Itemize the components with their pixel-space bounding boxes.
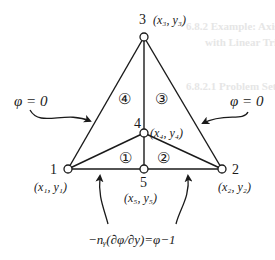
mesh-nodes	[64, 33, 226, 173]
node-2-coord: (x₂, y₂)	[218, 180, 251, 194]
mesh-edges	[68, 37, 222, 169]
node-5-label: 5	[140, 175, 147, 190]
right-arrow-icon	[203, 112, 248, 123]
bottom-left-arrow-icon	[100, 176, 108, 224]
finite-element-mesh-diagram: 3 (x₃, y₃) 4 (x₄, y₄) 1 (x₁, y₁) 2 (x₂, …	[0, 0, 275, 260]
edge-1-3	[68, 37, 144, 169]
node-3-label: 3	[139, 12, 146, 27]
left-boundary-condition: φ = 0	[14, 93, 48, 109]
node-1-label: 1	[50, 162, 57, 177]
edge-1-4	[68, 133, 144, 169]
node-3-coord: (x₃, y₃)	[153, 13, 186, 27]
element-1-label: ①	[119, 150, 132, 166]
node-5	[140, 165, 148, 173]
node-4	[140, 129, 148, 137]
node-4-coord: (x₄, y₄)	[150, 126, 183, 140]
element-4-label: ④	[118, 91, 131, 107]
node-4-label: 4	[134, 116, 141, 131]
left-arrow-icon	[30, 110, 90, 121]
node-3	[140, 33, 148, 41]
right-boundary-condition: φ = 0	[230, 93, 264, 109]
element-3-label: ③	[155, 91, 168, 107]
node-2	[218, 165, 226, 173]
node-1-coord: (x₁, y₁)	[34, 180, 67, 194]
bottom-right-arrow-icon	[176, 176, 188, 224]
node-2-label: 2	[232, 162, 239, 177]
element-2-label: ②	[157, 150, 170, 166]
bottom-boundary-condition: −nᵧ(∂φ/∂y)=φ−1	[88, 232, 176, 247]
node-1	[64, 165, 72, 173]
node-5-coord: (x₅, y₅)	[124, 191, 157, 205]
